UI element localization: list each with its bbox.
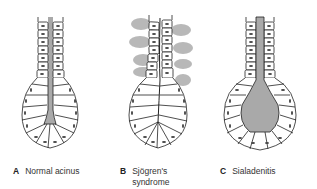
sjogrens-illustration bbox=[105, 0, 212, 189]
panel-letter: C bbox=[220, 166, 226, 176]
panel-letter: B bbox=[120, 166, 126, 176]
caption-a: ANormal acinus bbox=[13, 166, 79, 177]
sialadenitis-illustration bbox=[210, 0, 317, 189]
panel-sialadenitis: CSialadenitis bbox=[210, 0, 317, 189]
caption-c: CSialadenitis bbox=[220, 166, 276, 177]
panel-letter: A bbox=[13, 166, 19, 176]
panel-label: Sialadenitis bbox=[232, 166, 275, 177]
panel-label: Sjögren's bbox=[132, 166, 167, 176]
caption-b: BSjögren'ssyndrome bbox=[120, 166, 169, 188]
panel-normal-acinus: ANormal acinus bbox=[0, 0, 105, 189]
normal-acinus-illustration bbox=[0, 0, 105, 189]
infiltrate-blobs bbox=[129, 18, 193, 86]
panel-label-line2: syndrome bbox=[132, 177, 169, 187]
panel-label: Normal acinus bbox=[25, 166, 79, 177]
panel-sjogrens-syndrome: BSjögren'ssyndrome bbox=[105, 0, 212, 189]
